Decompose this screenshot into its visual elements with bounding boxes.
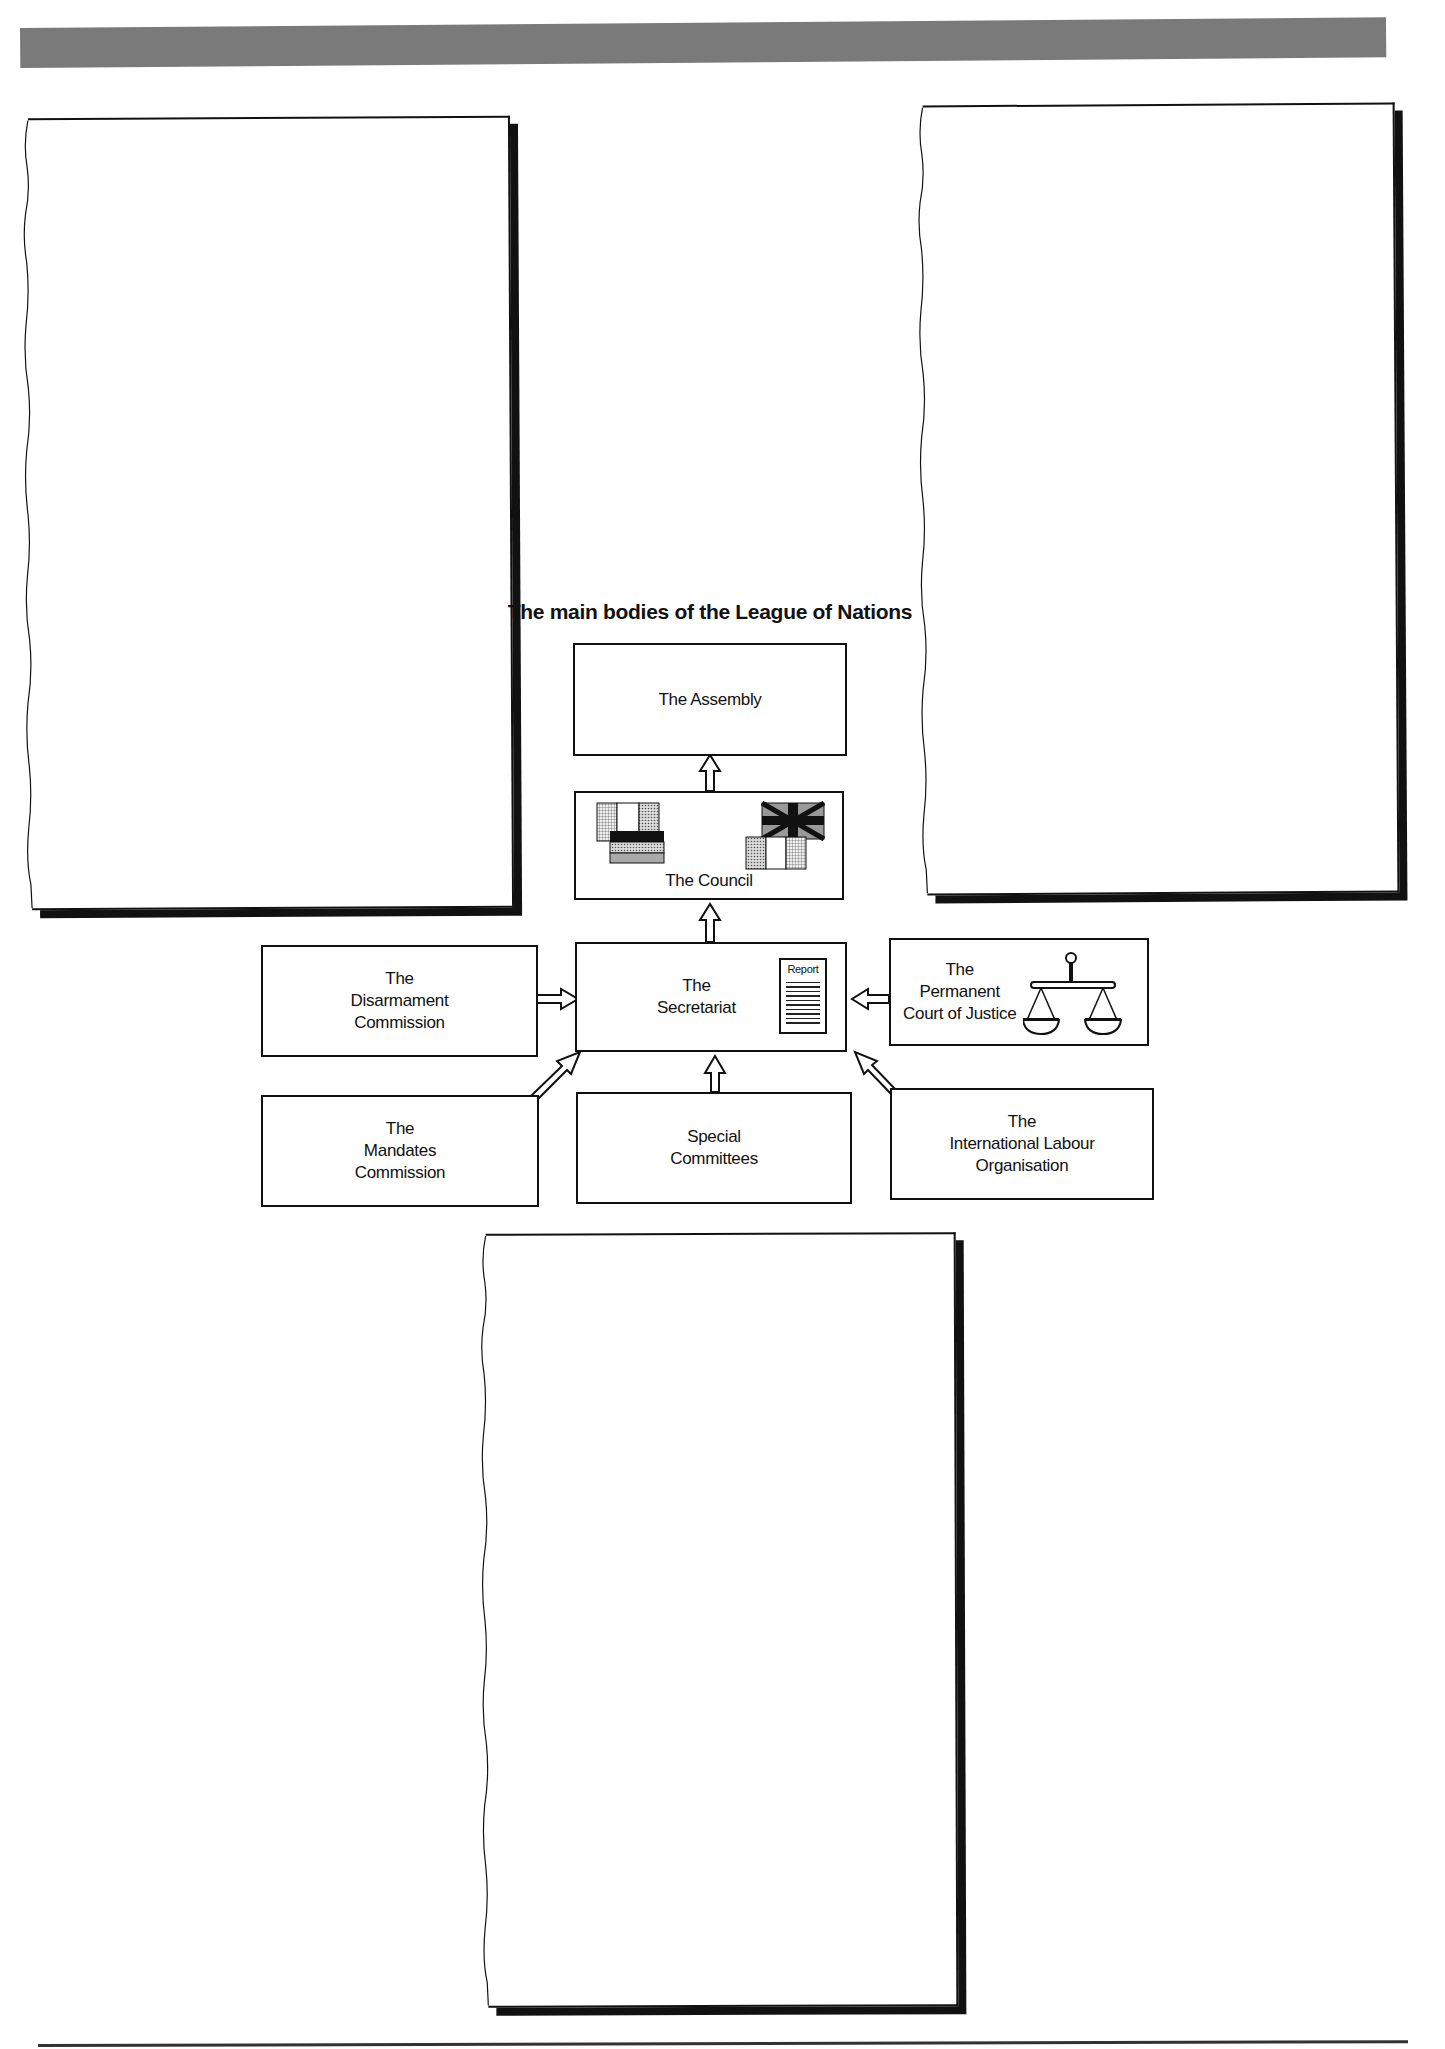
node-label: The International Labour Organisation [949, 1111, 1094, 1177]
torn-edge-icon [478, 1236, 493, 2006]
node-label: The Mandates Commission [355, 1118, 446, 1184]
answer-panel-bottom-center[interactable] [486, 1232, 959, 2008]
node-council: The Council [574, 791, 844, 900]
node-international-labour-organisation: The International Labour Organisation [890, 1088, 1154, 1200]
node-permanent-court: The Permanent Court of Justice [889, 938, 1149, 1046]
flags-icon [744, 801, 828, 873]
node-label: Special Committees [670, 1126, 758, 1170]
node-mandates-commission: The Mandates Commission [261, 1095, 539, 1207]
arrow-committees-to-secretariat [705, 1056, 725, 1092]
diagram-title: The main bodies of the League of Nations [500, 600, 920, 624]
node-assembly: The Assembly [573, 643, 847, 756]
arrow-court-to-secretariat [852, 989, 889, 1009]
scales-of-justice-icon [1023, 950, 1127, 1040]
node-secretariat: The Secretariat Report [575, 942, 847, 1052]
footer-rule [38, 2040, 1408, 2047]
node-label: The Secretariat [657, 975, 736, 1019]
torn-edge-icon [20, 120, 36, 908]
torn-edge-icon [915, 107, 932, 893]
node-label: The Disarmament Commission [351, 968, 449, 1034]
report-icon: Report [779, 958, 827, 1034]
arrow-disarmament-to-secretariat [534, 989, 578, 1009]
header-bar [20, 17, 1386, 68]
arrow-secretariat-to-council [700, 904, 720, 942]
report-label: Report [781, 962, 825, 976]
answer-panel-top-left[interactable] [28, 116, 514, 911]
arrow-council-to-assembly [700, 755, 720, 791]
arrow-mandates-to-secretariat [532, 1052, 580, 1100]
node-label: The Assembly [658, 689, 761, 711]
node-label: The Permanent Court of Justice [903, 959, 1016, 1025]
answer-panel-top-right[interactable] [923, 103, 1400, 896]
node-disarmament-commission: The Disarmament Commission [261, 945, 538, 1057]
flags-icon [596, 801, 668, 873]
node-label: The Council [665, 870, 752, 892]
node-special-committees: Special Committees [576, 1092, 852, 1204]
